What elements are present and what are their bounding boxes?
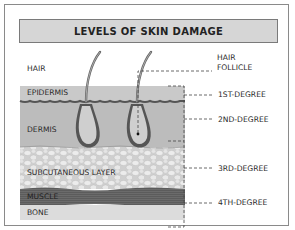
- label-dermis: DERMIS: [27, 125, 57, 134]
- label-4th-degree: 4TH-DEGREE: [218, 198, 267, 207]
- label-hair-follicle-line1: HAIR: [217, 53, 235, 62]
- label-bone: BONE: [27, 208, 49, 217]
- label-3rd-degree: 3RD-DEGREE: [218, 164, 268, 173]
- label-2nd-degree: 2ND-DEGREE: [218, 115, 269, 124]
- label-epidermis: EPIDERMIS: [27, 88, 68, 97]
- label-hair-follicle-line2: FOLLICLE: [217, 63, 252, 72]
- label-subcutaneous-layer: SUBCUTANEOUS LAYER: [27, 168, 116, 177]
- label-1st-degree: 1ST-DEGREE: [218, 90, 266, 99]
- label-muscle: MUSCLE: [27, 192, 58, 201]
- label-hair: HAIR: [27, 64, 45, 73]
